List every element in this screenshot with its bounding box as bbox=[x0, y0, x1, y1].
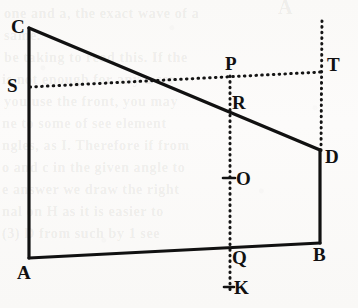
point-label-S: S bbox=[7, 76, 18, 95]
segment-AB bbox=[29, 243, 320, 258]
point-label-A: A bbox=[17, 263, 31, 282]
geometric-figure-canvas: Aone and a, the exact wave of asame.be t… bbox=[0, 0, 358, 308]
geometry-drawing bbox=[0, 0, 358, 308]
point-label-K: K bbox=[234, 278, 249, 297]
point-label-T: T bbox=[327, 55, 340, 74]
point-label-R: R bbox=[232, 93, 246, 112]
point-label-Q: Q bbox=[232, 248, 247, 267]
point-label-P: P bbox=[225, 54, 237, 73]
segment-T-vertical bbox=[321, 21, 322, 152]
point-label-D: D bbox=[325, 147, 339, 166]
segment-ST bbox=[30, 72, 322, 87]
point-label-C: C bbox=[11, 17, 25, 36]
segment-CD bbox=[29, 28, 320, 150]
point-label-O: O bbox=[236, 169, 251, 188]
point-label-B: B bbox=[313, 245, 326, 264]
solid-outline bbox=[29, 28, 320, 258]
